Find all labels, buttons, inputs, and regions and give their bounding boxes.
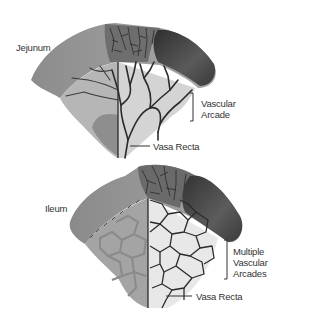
ileum-title: Ileum [45, 203, 67, 214]
arcades-bracket [224, 240, 227, 279]
multiple-vascular-arcades-label: Multiple Vascular Arcades [233, 246, 268, 279]
ileum-vasa-recta-label: Vasa Recta [196, 291, 242, 302]
